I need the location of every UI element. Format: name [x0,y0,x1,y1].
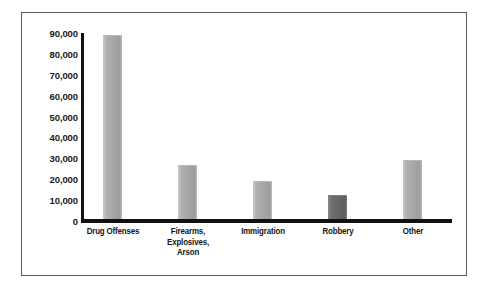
bar-fill [253,181,272,219]
category-label-line: Other [364,226,461,237]
bar-chart-figure: 010,00020,00030,00040,00050,00060,00070,… [0,0,490,289]
plot-area: 010,00020,00030,00040,00050,00060,00070,… [0,0,490,289]
bar-firearms-explosives-arson [178,165,197,219]
category-label-line: Explosives, [139,237,236,248]
bar-drug-offenses [103,35,122,219]
bar-fill [328,195,347,219]
category-label-line: Arson [139,247,236,258]
bar-other [403,160,422,219]
bar-fill [178,165,197,219]
bar-fill [103,35,122,219]
x-axis-category-labels: Drug OffensesFirearms,Explosives,ArsonIm… [0,226,490,286]
bar-robbery [328,195,347,219]
category-label: Other [364,226,461,237]
bar-fill [403,160,422,219]
bar-immigration [253,181,272,219]
